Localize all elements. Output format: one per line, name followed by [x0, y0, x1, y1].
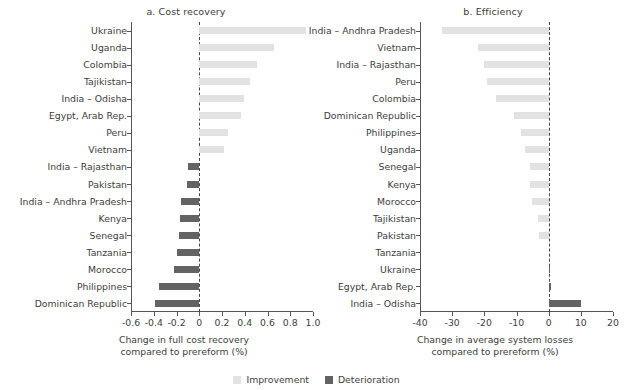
bar-row — [420, 39, 613, 56]
bar-pakistan — [187, 181, 200, 188]
bar-row — [420, 73, 613, 90]
bar-tajikistan — [199, 78, 250, 85]
y-tick-mark — [127, 184, 131, 185]
category-label: Senegal — [379, 158, 416, 175]
category-label: Morocco — [88, 261, 127, 278]
y-tick-mark — [127, 150, 131, 151]
x-tick-mark — [199, 312, 200, 316]
x-tick-label: 0.2 — [215, 317, 230, 328]
panel-b-title: b. Efficiency — [313, 6, 633, 17]
category-label: Kenya — [99, 210, 127, 227]
bar-row — [420, 210, 613, 227]
bar-row — [131, 210, 313, 227]
x-tick-label: -10 — [509, 317, 524, 328]
category-label: Morocco — [377, 193, 416, 210]
x-tick-mark — [245, 312, 246, 316]
bar-row — [131, 90, 313, 107]
x-tick-label: -30 — [445, 317, 460, 328]
y-tick-mark — [416, 252, 420, 253]
bar-ukraine — [199, 27, 306, 34]
bar-row — [420, 176, 613, 193]
category-label: Colombia — [372, 90, 416, 107]
x-tick-label: 0.6 — [260, 317, 275, 328]
bar-kenya — [530, 181, 548, 188]
bar-india-odisha — [549, 300, 581, 307]
category-label: Ukraine — [91, 22, 127, 39]
bar-egypt-arab-rep — [549, 283, 551, 290]
y-tick-mark — [416, 48, 420, 49]
category-label: India – Rajasthan — [336, 56, 416, 73]
bar-row — [420, 193, 613, 210]
y-tick-mark — [127, 252, 131, 253]
bar-senegal — [179, 232, 199, 239]
bar-row — [131, 73, 313, 90]
bar-dominican-republic — [514, 112, 548, 119]
legend-swatch-deterioration-icon — [325, 376, 333, 384]
y-tick-mark — [127, 48, 131, 49]
bar-row — [131, 124, 313, 141]
bar-kenya — [180, 215, 199, 222]
bar-senegal — [530, 163, 548, 170]
x-tick-label: -0.6 — [122, 317, 140, 328]
x-tick-mark — [154, 312, 155, 316]
y-tick-mark — [127, 31, 131, 32]
category-label: India – Odisha — [61, 90, 127, 107]
category-label: Egypt, Arab Rep. — [338, 278, 416, 295]
bar-india-odisha — [199, 95, 243, 102]
x-tick-label: -0.2 — [167, 317, 185, 328]
y-tick-mark — [416, 82, 420, 83]
legend-item-deterioration: Deterioration — [325, 374, 400, 385]
panel-b-axis-title-line1: Change in average system losses — [357, 334, 633, 346]
x-tick-label: -0.4 — [145, 317, 163, 328]
category-label: India – Odisha — [350, 295, 416, 312]
bar-uganda — [199, 44, 274, 51]
x-tick-mark — [222, 312, 223, 316]
y-tick-mark — [127, 269, 131, 270]
y-tick-mark — [127, 82, 131, 83]
bar-row — [131, 158, 313, 175]
legend-label-improvement: Improvement — [246, 374, 309, 385]
x-tick-mark — [420, 312, 421, 316]
x-tick-mark — [549, 312, 550, 316]
x-tick-label: -40 — [412, 317, 427, 328]
bar-row — [131, 56, 313, 73]
x-tick-label: 10 — [575, 317, 587, 328]
bar-india-andhra-pradesh — [442, 27, 549, 34]
x-tick-mark — [613, 312, 614, 316]
x-tick-mark — [581, 312, 582, 316]
bar-vietnam — [199, 146, 224, 153]
x-tick-label: 0 — [196, 317, 202, 328]
category-label: Ukraine — [380, 261, 416, 278]
y-tick-mark — [416, 150, 420, 151]
bar-peru — [199, 129, 227, 136]
y-tick-mark — [416, 99, 420, 100]
bar-dominican-republic — [155, 300, 199, 307]
panel-a-bars — [131, 22, 313, 312]
category-label: Egypt, Arab Rep. — [49, 107, 127, 124]
bar-row — [420, 278, 613, 295]
x-tick-mark — [484, 312, 485, 316]
bar-vietnam — [478, 44, 549, 51]
legend: Improvement Deterioration — [0, 374, 633, 385]
bar-row — [131, 261, 313, 278]
category-label: Uganda — [380, 141, 416, 158]
y-tick-mark — [127, 201, 131, 202]
bar-row — [420, 227, 613, 244]
y-tick-mark — [127, 65, 131, 66]
panel-a-title: a. Cost recovery — [0, 6, 320, 17]
category-label: Kenya — [388, 176, 416, 193]
bar-uganda — [525, 146, 548, 153]
panel-a-axis-title-line2: compared to prereform (%) — [48, 346, 320, 358]
panel-b-axis-title-line2: compared to prereform (%) — [357, 346, 633, 358]
bar-row — [131, 227, 313, 244]
bar-row — [420, 261, 613, 278]
bar-tanzania — [177, 249, 200, 256]
panel-a-axis-title-line1: Change in full cost recovery — [48, 334, 320, 346]
bar-row — [420, 158, 613, 175]
panel-b-bars — [420, 22, 613, 312]
x-tick-mark — [452, 312, 453, 316]
category-label: Vietnam — [88, 141, 127, 158]
y-tick-mark — [127, 303, 131, 304]
x-tick-label: 0 — [546, 317, 552, 328]
bar-india-andhra-pradesh — [181, 198, 199, 205]
